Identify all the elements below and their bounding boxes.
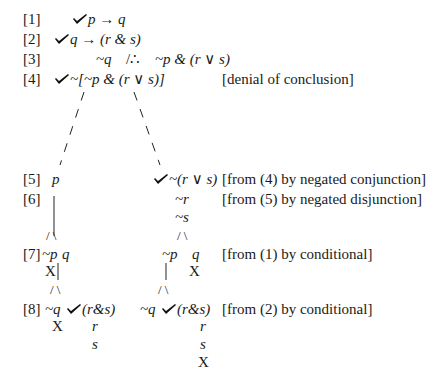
fork-left-8: / \ (50, 283, 60, 296)
line-label-8: [8] (23, 302, 41, 317)
closed-branch-mark: X (189, 264, 200, 279)
check-icon (66, 303, 82, 315)
line-8-left-formula: (r&s) (66, 302, 115, 317)
closed-branch-mark: X (198, 355, 209, 370)
right-r: r (200, 319, 206, 334)
left-s: s (92, 337, 98, 352)
bars-7 (0, 0, 439, 382)
left-not-q: ~q (45, 302, 61, 317)
check-icon (161, 303, 177, 315)
right-not-q: ~q (140, 302, 156, 317)
formula-text: (r&s) (82, 301, 115, 317)
justification-8: [from (2) by conditional] (222, 302, 372, 317)
fork-right-8: / \ (158, 283, 168, 296)
line-8-right-formula: (r&s) (161, 302, 210, 317)
formula-text: (r&s) (177, 301, 210, 317)
closed-branch-mark: X (52, 319, 63, 334)
right-s: s (200, 337, 206, 352)
left-r: r (92, 319, 98, 334)
